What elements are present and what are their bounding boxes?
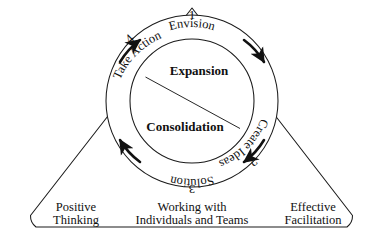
base-right-line1: Effective (290, 200, 336, 214)
base-center-line2: Individuals and Teams (136, 213, 249, 227)
base-left-line2: Thinking (53, 213, 100, 227)
base-label-left: Positive Thinking (53, 200, 100, 227)
base-left-line1: Positive (56, 200, 97, 214)
base-center-line1: Working with (158, 200, 228, 214)
core-lower-label: Consolidation (146, 119, 224, 134)
base-label-center: Working with Individuals and Teams (136, 200, 249, 227)
diagram-canvas: 1 2 3 4 Envision Create Ideas Solution (0, 0, 383, 244)
core-upper-label: Expansion (170, 63, 229, 78)
inner-circle (130, 39, 254, 163)
cycle-triangle-diagram: 1 2 3 4 Envision Create Ideas Solution (0, 0, 383, 244)
base-labels: Positive Thinking Working with Individua… (53, 200, 342, 227)
base-right-line2: Facilitation (285, 213, 343, 227)
base-label-right: Effective Facilitation (285, 200, 343, 227)
